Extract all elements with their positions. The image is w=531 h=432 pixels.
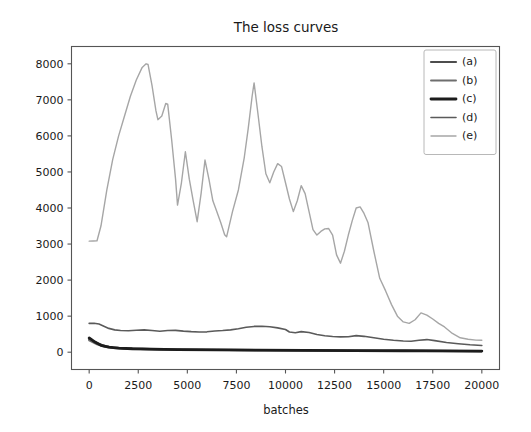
figure-canvas: The loss curves 010002000300040005000600… xyxy=(0,0,531,432)
legend-label-e: (e) xyxy=(462,129,477,142)
y-tick-label: 5000 xyxy=(36,166,64,179)
x-tick-label: 5000 xyxy=(173,379,201,392)
legend-label-b: (b) xyxy=(462,74,478,87)
x-tick-label: 12500 xyxy=(317,379,352,392)
x-tick-label: 17500 xyxy=(415,379,450,392)
y-tick-label: 3000 xyxy=(36,238,64,251)
x-tick-label: 20000 xyxy=(464,379,499,392)
y-tick-label: 6000 xyxy=(36,130,64,143)
y-tick-label: 1000 xyxy=(36,310,64,323)
legend-label-d: (d) xyxy=(462,111,478,124)
x-axis-label: batches xyxy=(263,403,309,417)
legend-label-a: (a) xyxy=(462,55,477,68)
y-tick-label: 4000 xyxy=(36,202,64,215)
y-tick-label: 0 xyxy=(57,346,64,359)
loss-curves-chart: The loss curves 010002000300040005000600… xyxy=(0,0,531,432)
y-tick-label: 2000 xyxy=(36,274,64,287)
chart-legend[interactable]: (a)(b)(c)(d)(e) xyxy=(424,50,496,155)
x-tick-label: 0 xyxy=(86,379,93,392)
chart-title: The loss curves xyxy=(233,19,339,35)
x-tick-label: 10000 xyxy=(268,379,303,392)
y-tick-label: 7000 xyxy=(36,94,64,107)
legend-label-c: (c) xyxy=(462,92,477,105)
x-tick-label: 2500 xyxy=(124,379,152,392)
y-tick-label: 8000 xyxy=(36,58,64,71)
x-tick-label: 7500 xyxy=(222,379,250,392)
x-tick-label: 15000 xyxy=(366,379,401,392)
